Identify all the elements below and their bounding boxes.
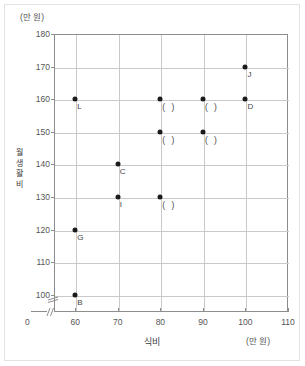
y-axis-tick-mark (51, 164, 55, 165)
gridline-horizontal (55, 133, 289, 134)
data-point (73, 97, 78, 102)
x-axis-unit-label: (만 원) (246, 337, 270, 346)
y-axis-tick-mark (51, 99, 55, 100)
x-axis-line (54, 311, 288, 312)
x-axis-zero-label: 0 (25, 318, 30, 327)
gridline-horizontal (55, 165, 289, 166)
data-point-label: G (77, 234, 83, 242)
x-axis-tick-label: 60 (60, 318, 90, 327)
y-axis-tick-mark (51, 132, 55, 133)
x-axis-tick-label: 110 (273, 318, 303, 327)
gridline-vertical (204, 35, 205, 312)
y-axis-tick-mark (51, 295, 55, 296)
data-point-label: J (247, 71, 251, 79)
y-axis-tick-label: 130 (16, 193, 50, 202)
gridline-horizontal (55, 263, 289, 264)
x-axis-tick-label: 80 (145, 318, 175, 327)
data-point-label: I (120, 201, 122, 209)
plot-area (54, 34, 288, 311)
x-axis-title: 식비 (144, 338, 160, 347)
y-axis-title: 월 생활비 (14, 148, 25, 190)
data-point-blank-label: ( ) (205, 103, 219, 112)
gridline-horizontal (55, 100, 289, 101)
y-axis-tick-mark (51, 34, 55, 35)
y-axis-tick-mark (51, 262, 55, 263)
x-axis-break-icon (43, 305, 56, 318)
data-point (243, 64, 248, 69)
data-point-blank-label: ( ) (162, 201, 176, 210)
gridline-horizontal (55, 231, 289, 232)
y-axis-tick-label: 180 (16, 30, 50, 39)
data-point (73, 227, 78, 232)
x-axis-tick-mark (160, 308, 161, 312)
y-axis-tick-label: 110 (16, 258, 50, 267)
y-axis-tick-label: 140 (16, 160, 50, 169)
data-point-label: B (77, 299, 82, 307)
data-point (115, 162, 120, 167)
gridline-horizontal (55, 296, 289, 297)
x-axis-tick-label: 90 (188, 318, 218, 327)
gridline-horizontal (55, 68, 289, 69)
x-axis-tick-label: 100 (230, 318, 260, 327)
gridline-vertical (76, 35, 77, 312)
x-axis-tick-mark (245, 308, 246, 312)
gridline-horizontal (55, 198, 289, 199)
y-axis-tick-mark (51, 230, 55, 231)
y-axis-tick-label: 150 (16, 128, 50, 137)
x-axis-tick-mark (75, 308, 76, 312)
data-point (158, 97, 163, 102)
data-point-blank-label: ( ) (162, 103, 176, 112)
data-point (158, 129, 163, 134)
x-axis-tick-mark (203, 308, 204, 312)
data-point-label: C (120, 168, 126, 176)
y-axis-tick-mark (51, 197, 55, 198)
scatter-plot-figure: (만 원) 월 생활비 0 식비 (만 원) 10011012013014015… (0, 0, 305, 366)
gridline-vertical (161, 35, 162, 312)
data-point (73, 292, 78, 297)
data-point (200, 97, 205, 102)
data-point (243, 97, 248, 102)
y-axis-tick-mark (51, 67, 55, 68)
x-axis-tick-mark (288, 308, 289, 312)
data-point-blank-label: ( ) (162, 136, 176, 145)
x-axis-tick-label: 70 (103, 318, 133, 327)
y-axis-tick-label: 160 (16, 95, 50, 104)
y-axis-unit-label: (만 원) (20, 13, 44, 22)
y-axis-tick-label: 100 (16, 291, 50, 300)
data-point-blank-label: ( ) (205, 136, 219, 145)
data-point (158, 194, 163, 199)
x-axis-tick-mark (118, 308, 119, 312)
y-axis-tick-label: 120 (16, 226, 50, 235)
data-point (115, 194, 120, 199)
data-point-label: D (247, 103, 253, 111)
y-axis-tick-label: 170 (16, 63, 50, 72)
data-point-label: L (77, 103, 81, 111)
data-point (200, 129, 205, 134)
